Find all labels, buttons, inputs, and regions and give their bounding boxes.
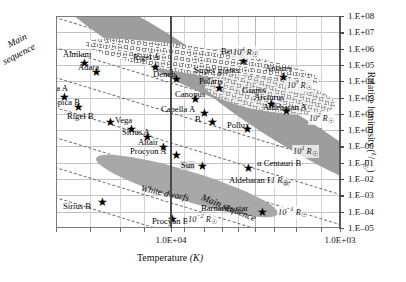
radius-label-1: 1 R☉ <box>270 177 289 187</box>
y-tick <box>339 212 344 213</box>
x-tick <box>238 228 239 232</box>
star-label-sirius-b: Sirius B <box>63 202 91 211</box>
axis-mid-divider <box>170 16 172 228</box>
star-marker-capella-b[interactable]: ★ <box>207 116 218 128</box>
x-axis-title: Temperature (K) <box>0 252 340 263</box>
radius-label-10e-1: 10−1 R☉ <box>277 206 308 219</box>
x-tick <box>274 228 275 232</box>
radius-label-10e2: 102 R☉ <box>308 112 335 125</box>
radius-exp: 1 <box>301 144 304 151</box>
star-marker-rigel-b[interactable]: ★ <box>105 116 116 128</box>
radius-exp: 2 <box>317 111 320 118</box>
y-tick <box>339 146 344 147</box>
star-label-sirius-a: Sirius A <box>122 128 150 137</box>
sun-symbol-icon: ☉ <box>312 150 318 158</box>
y-axis-title: Relative luminosity (L/L☉) <box>361 46 378 198</box>
region-label-super-giants: Super giants <box>194 66 240 75</box>
y-axis-title-text: Relative luminosity <box>366 72 377 147</box>
y-tick <box>339 195 344 196</box>
star-marker-sun[interactable]: ★ <box>197 160 208 172</box>
x-tick-label: 1.0E+03 <box>325 236 356 245</box>
hr-diagram-figure: ★ ★ ★ ★ ★ ★ ★ ★ ★ ★ ★ ★ ★ ★ ★ ★ ★ ★ ★ ★ … <box>0 0 406 282</box>
star-label-aldebaran-b: Aldebaran B <box>229 176 273 185</box>
radius-label-10e3: 103 R☉ <box>286 79 313 92</box>
star-label-spica-a: Spica A <box>56 84 68 93</box>
star-label-rigel-a: Rigel A <box>133 53 160 62</box>
radius-label-10e-2: 10−2 R☉ <box>187 213 218 226</box>
sun-symbol-icon: ☉ <box>252 51 258 59</box>
region-label-giants: Giants <box>242 86 266 95</box>
sun-symbol-icon: ☉ <box>301 211 307 219</box>
sun-symbol-icon: ☉ <box>211 218 217 226</box>
y-tick <box>339 81 344 82</box>
x-axis-title-text: Temperature <box>137 252 187 263</box>
x-tick <box>340 228 341 232</box>
radius-exp: 3 <box>295 78 298 85</box>
axis-left-frame <box>56 16 57 228</box>
star-label-alpha-centauri-b: α Centauri B <box>257 159 301 168</box>
x-axis-title-unit: (K) <box>190 252 203 263</box>
star-label-spica-b: Spica B <box>56 98 80 107</box>
axis-top-frame <box>56 16 341 17</box>
y-tick <box>339 49 344 50</box>
x-tick-label: 1.0E+04 <box>156 236 187 245</box>
radius-label-10e1: 101 R☉ <box>292 145 319 158</box>
x-tick <box>90 228 91 232</box>
star-label-polaris: Polaris <box>199 77 223 86</box>
x-tick <box>222 228 223 232</box>
star-marker-barnards-star[interactable]: ★ <box>257 206 268 218</box>
radius-base: 1 <box>271 176 275 185</box>
axis-bottom-frame <box>56 227 341 228</box>
star-label-vega: Vega <box>115 116 132 125</box>
plot-area: ★ ★ ★ ★ ★ ★ ★ ★ ★ ★ ★ ★ ★ ★ ★ ★ ★ ★ ★ ★ … <box>56 16 340 228</box>
x-tick <box>184 228 185 232</box>
radius-label-10e4: 104 R☉ <box>232 46 259 59</box>
y-tick-label: 1.E–04 <box>348 207 374 216</box>
y-tick-label: 1.E–05 <box>348 223 374 232</box>
y-tick <box>339 32 344 33</box>
y-tick <box>339 114 344 115</box>
star-marker-sirius-b[interactable]: ★ <box>97 196 108 208</box>
star-label-pollux: Pollux <box>227 121 249 130</box>
y-tick <box>339 163 344 164</box>
star-label-rigel-b: Rigel B <box>67 112 94 121</box>
star-label-aldebaran-a: Aldebaran A <box>263 103 307 112</box>
x-tick <box>56 228 57 232</box>
region-label-main-sequence-upper-line2: sequence <box>1 42 37 67</box>
sun-symbol-icon: ☉ <box>361 163 369 169</box>
y-tick-label: 1.E+08 <box>348 12 374 21</box>
y-tick <box>339 179 344 180</box>
star-label-sun: Sun <box>180 161 195 170</box>
star-label-antares: Antares <box>265 64 292 73</box>
star-label-capella-b: B <box>195 115 201 124</box>
x-tick <box>144 228 145 232</box>
x-tick <box>120 228 121 232</box>
star-label-canopus: Canopus <box>175 90 205 99</box>
x-tick <box>321 228 322 232</box>
radius-exp: 4 <box>241 45 244 52</box>
x-tick <box>171 228 172 232</box>
x-tick <box>296 228 297 232</box>
x-tick <box>255 228 256 232</box>
x-tick <box>204 228 205 232</box>
star-label-procyon-a: Procyon A <box>130 147 167 156</box>
sun-symbol-icon: ☉ <box>282 179 288 187</box>
radius-exp: −1 <box>286 205 293 212</box>
radius-exp: −2 <box>196 212 203 219</box>
star-marker-alpha-centauri-b[interactable]: ★ <box>243 162 254 174</box>
sun-symbol-icon: ☉ <box>306 84 312 92</box>
sun-symbol-icon: ☉ <box>328 117 334 125</box>
star-label-capella-a: Capella A <box>161 105 195 114</box>
y-tick <box>339 98 344 99</box>
y-axis-unit-denominator: L☉ <box>364 159 371 169</box>
star-label-adara: Adara <box>78 63 99 72</box>
y-tick <box>339 65 344 66</box>
y-tick <box>339 130 344 131</box>
y-tick <box>339 16 344 17</box>
y-tick-label: 1.E+07 <box>348 28 374 37</box>
star-label-alnilam: Alnilam <box>63 50 91 59</box>
